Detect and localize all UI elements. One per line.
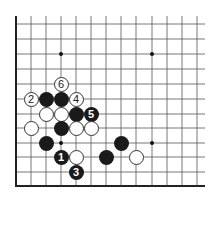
move-number: 5 <box>88 109 94 120</box>
black-stone <box>99 150 114 165</box>
white-stone <box>69 121 84 136</box>
white-stone <box>69 150 84 165</box>
move-number: 3 <box>73 167 79 178</box>
white-stone <box>54 107 69 122</box>
white-stone <box>24 121 39 136</box>
star-point <box>150 141 154 145</box>
white-stone-6: 6 <box>54 77 69 92</box>
move-number: 1 <box>58 152 64 163</box>
black-stone-5: 5 <box>84 107 99 122</box>
black-stone <box>39 92 54 107</box>
move-number: 6 <box>58 79 64 90</box>
white-stone <box>39 107 54 122</box>
black-stone <box>54 121 69 136</box>
black-stone-1: 1 <box>54 150 69 165</box>
star-point <box>59 52 63 56</box>
black-stone-3: 3 <box>69 165 84 180</box>
move-number: 2 <box>28 94 34 105</box>
star-point <box>59 141 63 145</box>
move-number: 4 <box>73 94 79 105</box>
black-stone <box>69 107 84 122</box>
white-stone <box>84 121 99 136</box>
white-stone-2: 2 <box>24 92 39 107</box>
star-point <box>150 52 154 56</box>
white-stone <box>129 150 144 165</box>
black-stone <box>114 136 129 151</box>
white-stone-4: 4 <box>69 92 84 107</box>
black-stone <box>54 92 69 107</box>
black-stone <box>39 136 54 151</box>
